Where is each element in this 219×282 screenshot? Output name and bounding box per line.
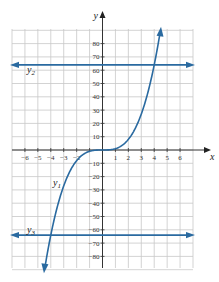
x-tick-label: 1 [114, 154, 118, 162]
y3-left-arrow-icon [10, 232, 19, 238]
y-tick-label: 60 [93, 67, 101, 75]
x-tick-label: 4 [152, 154, 156, 162]
x-tick-label: −4 [47, 154, 55, 162]
y-tick-label: 20 [93, 120, 101, 128]
x-tick-label: −3 [60, 154, 68, 162]
x-tick-label: −6 [21, 154, 29, 162]
y-tick-label: −10 [89, 160, 100, 168]
y-tick-label: −60 [89, 226, 100, 234]
y2-right-arrow-icon [186, 62, 195, 68]
y-tick-label: −20 [89, 173, 100, 181]
y-tick-label: 80 [93, 40, 101, 48]
y-tick-label: 50 [93, 80, 101, 88]
y-tick-label: 10 [93, 133, 101, 141]
x-tick-label: 5 [165, 154, 169, 162]
y-tick-label: −30 [89, 186, 100, 194]
y-tick-label: −40 [89, 200, 100, 208]
y1-bottom-arrow-icon [41, 263, 48, 273]
y1-top-arrow-icon [157, 27, 164, 37]
y3-right-arrow-icon [186, 232, 195, 238]
y-tick-label: −70 [89, 240, 100, 248]
y2-left-arrow-icon [10, 62, 19, 68]
x-tick-label: 6 [178, 154, 182, 162]
y1-label: y1 [52, 177, 61, 190]
y-axis-arrow-icon [100, 11, 106, 18]
x-tick-label: −5 [34, 154, 42, 162]
y-tick-label: −50 [89, 213, 100, 221]
y-tick-label: 30 [93, 107, 101, 115]
x-axis-label: x [209, 151, 215, 162]
y-tick-label: −80 [89, 253, 100, 261]
x-tick-label: 2 [127, 154, 131, 162]
cubic-graph: xy−6−5−4−3−21234568070605040302010−10−20… [0, 0, 219, 282]
y-tick-label: 40 [93, 93, 101, 101]
y-axis-label: y [93, 10, 99, 21]
y-tick-label: 70 [93, 53, 101, 61]
x-tick-label: 3 [140, 154, 144, 162]
y2-label: y2 [26, 64, 35, 77]
